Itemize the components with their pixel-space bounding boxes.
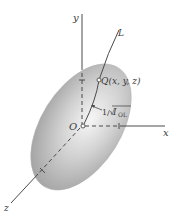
point-Q-label: Q(x, y, z) — [101, 76, 141, 86]
inertia-ellipsoid-diagram: y x z L O Q(x, y, z) 1/√ I OL — [0, 0, 185, 214]
line-L-label: L — [117, 28, 124, 38]
svg-text:I: I — [112, 107, 117, 117]
y-axis-label: y — [72, 12, 79, 23]
z-axis-label: z — [3, 203, 9, 213]
svg-text:OL: OL — [118, 111, 127, 118]
x-axis-label: x — [163, 127, 169, 138]
origin-label: O — [69, 121, 77, 132]
origin-point — [81, 124, 85, 128]
